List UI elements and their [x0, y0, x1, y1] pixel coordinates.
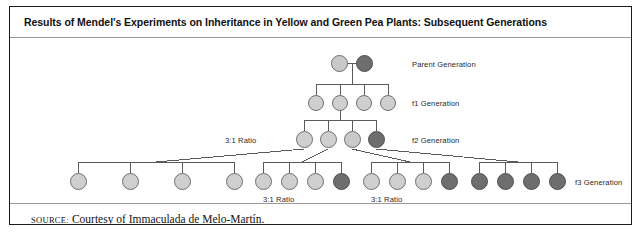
f3-g3-node-1 [363, 173, 380, 190]
pedigree-diagram: Parent Generation f1 Generation 3:1 Rati… [10, 7, 631, 223]
f3-g4-node-3 [523, 173, 540, 190]
f2-generation-label: f2 Generation [412, 136, 459, 145]
f3-g3-node-3 [415, 173, 432, 190]
f3-g1-node-1 [70, 173, 87, 190]
f3-g2-node-2 [281, 173, 298, 190]
f2-node-3 [344, 131, 361, 148]
f1-node-4 [380, 95, 396, 111]
f3-g2-node-4 [333, 173, 350, 190]
f2-node-4 [368, 131, 385, 148]
f2-node-1 [296, 131, 313, 148]
source-label: Source: [31, 215, 69, 225]
source-credit: Source: Courtesy of Immaculada de Melo-M… [31, 213, 264, 225]
f3-g1-node-3 [174, 173, 191, 190]
parent-node-2 [356, 55, 373, 72]
parent-generation-label: Parent Generation [412, 60, 476, 69]
parent-node-1 [331, 55, 348, 72]
f3-g2-node-1 [255, 173, 272, 190]
f3-generation-label: f3 Generation [575, 178, 622, 187]
f1-node-2 [332, 95, 348, 111]
f3-g4-node-4 [549, 173, 566, 190]
source-divider [10, 203, 631, 204]
f1-node-3 [356, 95, 372, 111]
f3-g3-node-4 [441, 173, 458, 190]
pedigree-connectors [10, 7, 631, 223]
f2-ratio-label: 3:1 Ratio [225, 136, 256, 145]
f3-g3-node-2 [389, 173, 406, 190]
f1-node-1 [308, 95, 324, 111]
figure-panel: Results of Mendel's Experiments on Inher… [9, 6, 632, 225]
source-text: Courtesy of Immaculada de Melo-Martín. [72, 213, 265, 225]
f1-generation-label: f1 Generation [412, 99, 459, 108]
f3-g4-node-2 [497, 173, 514, 190]
f3-g4-node-1 [471, 173, 488, 190]
f2-node-2 [320, 131, 337, 148]
f3-g1-node-4 [226, 173, 243, 190]
f3-g1-node-2 [122, 173, 139, 190]
f3-g2-node-3 [307, 173, 324, 190]
